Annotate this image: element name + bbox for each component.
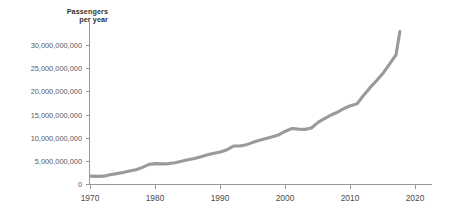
y-tick-label-0: 0: [78, 180, 82, 189]
y-tick-label-15b: 15,000,000,000: [31, 111, 82, 120]
y-axis: 0 5,000,000,000 10,000,000,000 15,000,00…: [31, 22, 90, 189]
x-tick-label-2000: 2000: [276, 193, 295, 203]
chart-canvas: Passengers per year 0 5,000,000,000 10,0…: [0, 0, 458, 214]
x-tick-label-2010: 2010: [341, 193, 360, 203]
y-tick-label-5b: 5,000,000,000: [35, 157, 82, 166]
y-tick-label-25b: 25,000,000,000: [31, 64, 82, 73]
y-axis-title: Passengers per year: [67, 7, 108, 24]
x-tick-label-1970: 1970: [81, 193, 100, 203]
y-tick-label-20b: 20,000,000,000: [31, 87, 82, 96]
x-axis: 1970 1980 1990 2000 2010 2020: [81, 185, 432, 204]
passengers-per-year-chart: Passengers per year 0 5,000,000,000 10,0…: [0, 0, 458, 214]
x-tick-label-2020: 2020: [406, 193, 425, 203]
y-tick-label-30b: 30,000,000,000: [31, 41, 82, 50]
passenger-trend-line: [91, 32, 400, 177]
y-tick-label-10b: 10,000,000,000: [31, 134, 82, 143]
x-tick-label-1980: 1980: [146, 193, 165, 203]
x-tick-label-1990: 1990: [211, 193, 230, 203]
y-axis-title-line-2: per year: [79, 15, 108, 24]
